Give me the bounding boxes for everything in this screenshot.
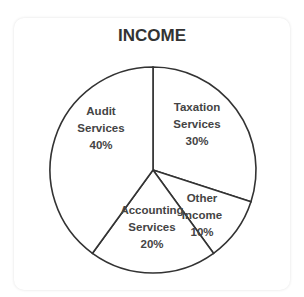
slice-label: 20%	[140, 238, 163, 250]
slice-label: 30%	[185, 135, 208, 147]
slice-label: Taxation	[174, 101, 220, 113]
slice-label: Income	[182, 209, 222, 221]
slice-label: Other	[187, 192, 218, 204]
slice-label: 10%	[190, 226, 213, 238]
slice-label: Accounting	[120, 204, 183, 216]
slice-label: 40%	[89, 139, 112, 151]
slice-label: Services	[77, 122, 124, 134]
pie-chart: TaxationServices30%OtherIncome10%Account…	[0, 0, 304, 297]
slice-label: Audit	[86, 105, 116, 117]
slice-label: Services	[173, 118, 220, 130]
slice-label: Services	[128, 221, 175, 233]
